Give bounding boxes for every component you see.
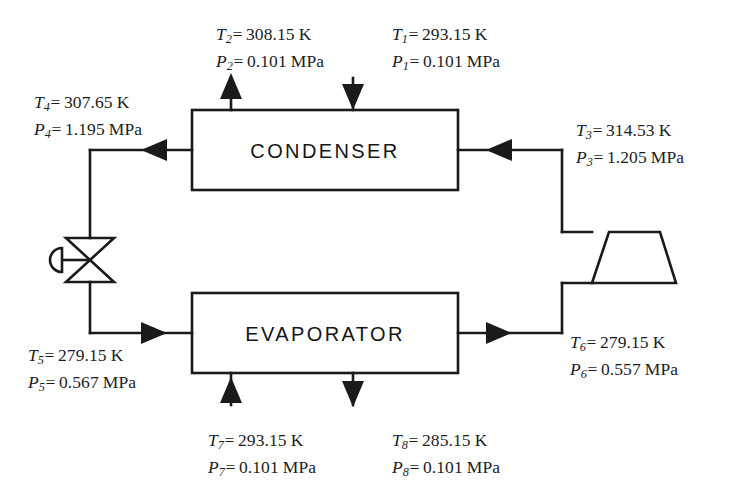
state-2-temperature: T2=308.15K xyxy=(216,22,324,49)
flow-arrow-state3 xyxy=(486,139,512,161)
evaporator-label: EVAPORATOR xyxy=(245,323,405,345)
state-3-pressure: P3=1.205MPa xyxy=(576,145,684,172)
compressor-body xyxy=(592,232,676,283)
state-label-8: T8=285.15K P8=0.101MPa xyxy=(392,428,500,481)
state-5-temperature: T5=279.15K xyxy=(28,343,136,370)
flow-arrow-state2 xyxy=(220,73,242,99)
state-8-temperature: T8=285.15K xyxy=(392,428,500,455)
state-5-pressure: P5=0.567MPa xyxy=(28,370,136,397)
state-label-3: T3=314.53K P3=1.205MPa xyxy=(576,118,684,171)
state-1-temperature: T1=293.15K xyxy=(392,22,500,49)
state-7-temperature: T7=293.15K xyxy=(208,428,316,455)
state-4-temperature: T4=307.65K xyxy=(34,90,142,117)
state-6-temperature: T6=279.15K xyxy=(570,330,678,357)
state-2-pressure: P2=0.101MPa xyxy=(216,49,324,76)
expansion-valve-lower-triangle xyxy=(66,260,114,282)
condenser-label: CONDENSER xyxy=(250,140,399,162)
state-label-6: T6=279.15K P6=0.557MPa xyxy=(570,330,678,383)
flow-arrow-state5 xyxy=(141,322,167,344)
state-label-2: T2=308.15K P2=0.101MPa xyxy=(216,22,324,75)
flow-arrow-state6 xyxy=(486,322,512,344)
state-label-1: T1=293.15K P1=0.101MPa xyxy=(392,22,500,75)
state-4-pressure: P4=1.195MPa xyxy=(34,117,142,144)
state-label-7: T7=293.15K P7=0.101MPa xyxy=(208,428,316,481)
refrigeration-cycle-diagram: CONDENSER EVAPORATOR xyxy=(0,0,735,493)
flow-arrow-state8 xyxy=(342,381,364,407)
flow-arrow-state4 xyxy=(141,139,167,161)
state-1-pressure: P1=0.101MPa xyxy=(392,49,500,76)
flow-arrow-state1 xyxy=(342,84,364,110)
expansion-valve-upper-triangle xyxy=(66,238,114,260)
state-7-pressure: P7=0.101MPa xyxy=(208,455,316,482)
expansion-valve-handle xyxy=(50,248,62,272)
expansion-valve xyxy=(50,238,114,282)
state-3-temperature: T3=314.53K xyxy=(576,118,684,145)
state-8-pressure: P8=0.101MPa xyxy=(392,455,500,482)
state-label-5: T5=279.15K P5=0.567MPa xyxy=(28,343,136,396)
state-6-pressure: P6=0.557MPa xyxy=(570,357,678,384)
state-label-4: T4=307.65K P4=1.195MPa xyxy=(34,90,142,143)
flow-arrow-state7 xyxy=(220,377,242,403)
compressor xyxy=(592,232,676,283)
